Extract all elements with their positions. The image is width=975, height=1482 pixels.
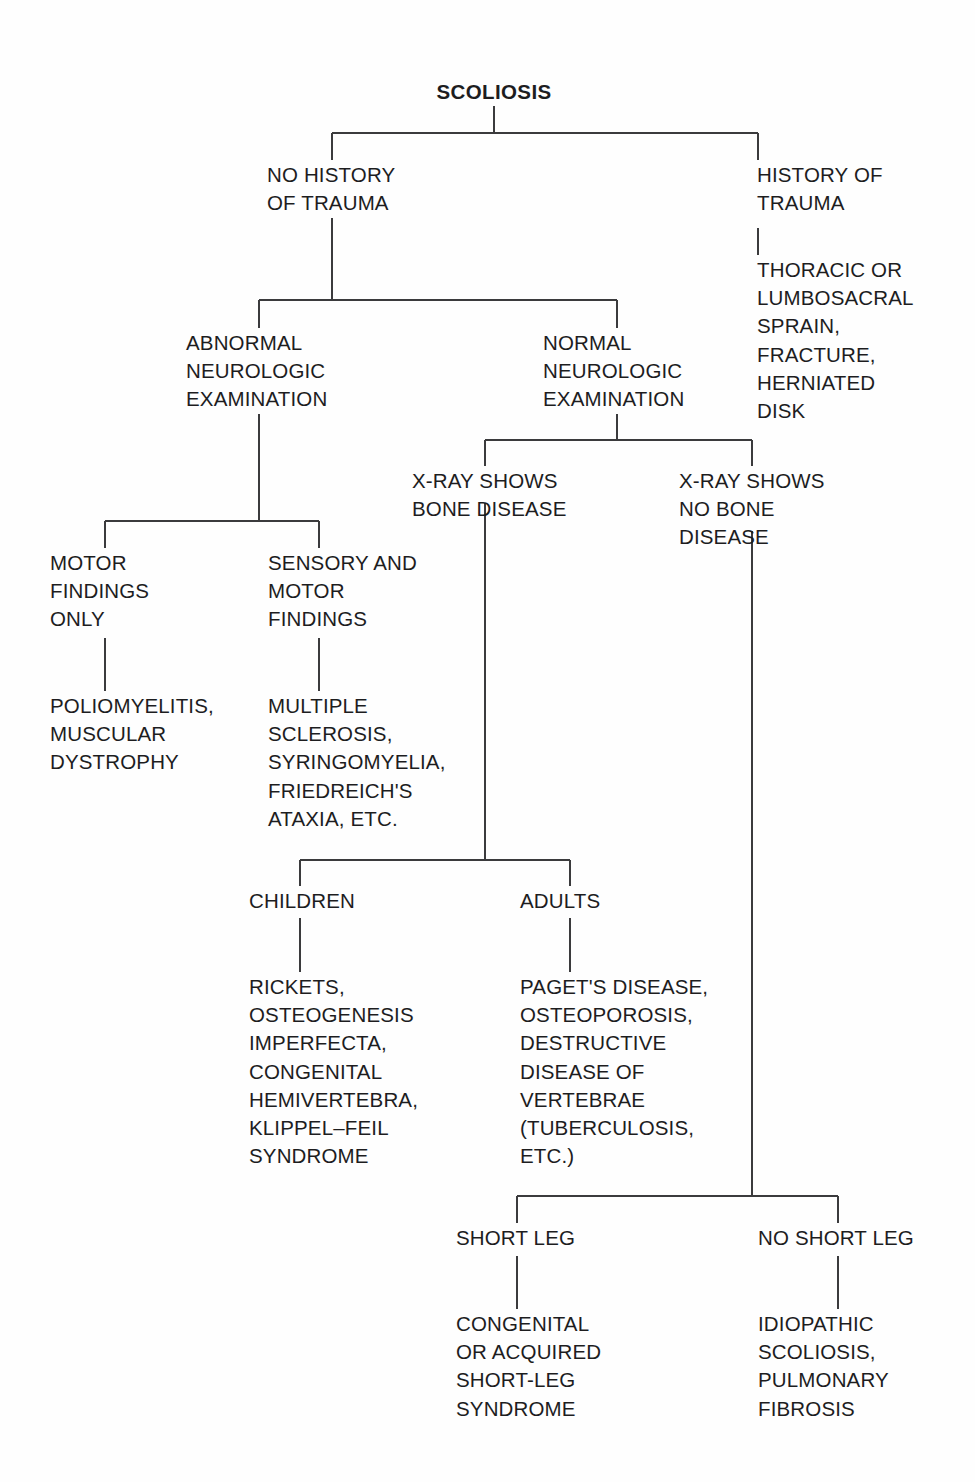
node-no-history-of-trauma: NO HISTORY OF TRAUMA <box>267 161 395 217</box>
scoliosis-flowchart: SCOLIOSIS NO HISTORY OF TRAUMA HISTORY O… <box>0 0 975 1482</box>
node-history-of-trauma: HISTORY OF TRAUMA <box>757 161 883 217</box>
node-xray-shows-bone-disease: X-RAY SHOWS BONE DISEASE <box>412 467 566 523</box>
node-children: CHILDREN <box>249 887 355 915</box>
node-sensory-and-motor-findings: SENSORY AND MOTOR FINDINGS <box>268 549 417 634</box>
node-no-short-leg-diagnoses: IDIOPATHIC SCOLIOSIS, PULMONARY FIBROSIS <box>758 1310 889 1423</box>
node-trauma-diagnoses: THORACIC OR LUMBOSACRAL SPRAIN, FRACTURE… <box>757 256 914 425</box>
node-no-short-leg: NO SHORT LEG <box>758 1224 914 1252</box>
node-scoliosis-root: SCOLIOSIS <box>436 78 551 106</box>
node-adults: ADULTS <box>520 887 600 915</box>
node-short-leg: SHORT LEG <box>456 1224 575 1252</box>
node-xray-shows-no-bone-disease: X-RAY SHOWS NO BONE DISEASE <box>679 467 825 552</box>
node-children-diagnoses: RICKETS, OSTEOGENESIS IMPERFECTA, CONGEN… <box>249 973 418 1170</box>
node-short-leg-diagnoses: CONGENITAL OR ACQUIRED SHORT-LEG SYNDROM… <box>456 1310 601 1423</box>
node-abnormal-neurologic-examination: ABNORMAL NEUROLOGIC EXAMINATION <box>186 329 327 414</box>
node-motor-findings-only-diagnoses: POLIOMYELITIS, MUSCULAR DYSTROPHY <box>50 692 214 777</box>
node-motor-findings-only: MOTOR FINDINGS ONLY <box>50 549 149 634</box>
node-sensory-and-motor-findings-diagnoses: MULTIPLE SCLEROSIS, SYRINGOMYELIA, FRIED… <box>268 692 446 833</box>
node-normal-neurologic-examination: NORMAL NEUROLOGIC EXAMINATION <box>543 329 684 414</box>
node-adults-diagnoses: PAGET'S DISEASE, OSTEOPOROSIS, DESTRUCTI… <box>520 973 708 1170</box>
